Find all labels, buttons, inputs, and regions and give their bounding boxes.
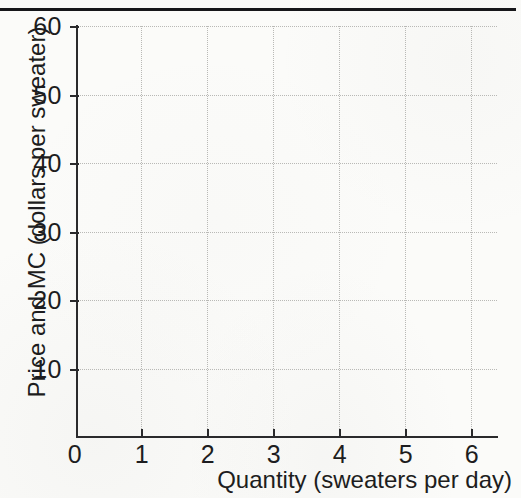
x-axis-tick-2 <box>207 429 209 438</box>
x-axis-line <box>76 436 498 438</box>
gridline-horizontal-10 <box>77 369 497 370</box>
gridline-horizontal-20 <box>77 300 497 301</box>
x-axis-tick-4 <box>339 429 341 438</box>
x-axis-tick-6 <box>471 429 473 438</box>
y-axis-tick-60 <box>70 26 79 28</box>
x-axis-tick-label-1: 1 <box>122 440 162 469</box>
gridline-vertical-4 <box>339 26 340 437</box>
gridline-vertical-2 <box>207 26 208 437</box>
gridline-vertical-3 <box>273 26 274 437</box>
gridline-vertical-1 <box>141 26 142 437</box>
y-axis-tick-20 <box>70 300 79 302</box>
x-axis-tick-label-0: 0 <box>55 440 95 469</box>
gridline-vertical-6 <box>471 26 472 437</box>
gridline-vertical-5 <box>405 26 406 437</box>
y-axis-tick-30 <box>70 232 79 234</box>
x-axis-tick-1 <box>141 429 143 438</box>
y-axis-tick-50 <box>70 95 79 97</box>
y-axis-tick-10 <box>70 369 79 371</box>
y-axis-tick-40 <box>70 163 79 165</box>
top-horizontal-rule <box>0 8 516 11</box>
plot-area <box>77 26 498 437</box>
gridline-horizontal-40 <box>77 163 497 164</box>
x-axis-tick-3 <box>273 429 275 438</box>
gridline-horizontal-30 <box>77 232 497 233</box>
x-axis-tick-label-2: 2 <box>188 440 228 469</box>
x-axis-tick-label-3: 3 <box>254 440 294 469</box>
figure-container: 60 50 40 30 20 10 0 1 2 3 4 5 6 Price an… <box>0 0 521 498</box>
x-axis-tick-label-4: 4 <box>320 440 360 469</box>
x-axis-tick-5 <box>405 429 407 438</box>
gridline-horizontal-50 <box>77 95 497 96</box>
x-axis-tick-label-5: 5 <box>386 440 426 469</box>
x-axis-tick-label-6: 6 <box>452 440 492 469</box>
y-axis-title: Price and MC (dollars per sweater) <box>23 12 51 412</box>
gridline-horizontal-60 <box>77 26 497 27</box>
x-axis-title: Quantity (sweaters per day) <box>160 466 512 494</box>
